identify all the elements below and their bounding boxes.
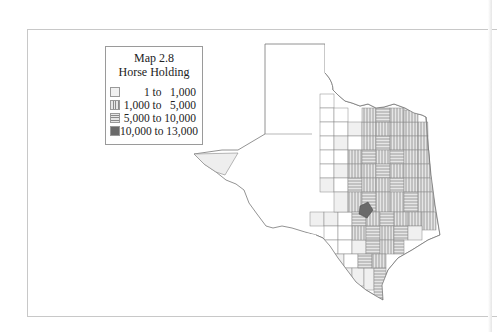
map-title: Map 2.8 [106, 51, 202, 65]
legend-item: 1 to 1,000 [106, 85, 202, 98]
legend-swatch-vertical [110, 100, 120, 110]
map-subtitle: Horse Holding [106, 65, 202, 79]
legend-swatch-dark [110, 126, 120, 136]
map-legend: Map 2.8 Horse Holding 1 to 1,000 1,000 t… [105, 46, 203, 145]
legend-swatch-light [110, 87, 120, 97]
legend-swatch-horizontal [110, 113, 120, 123]
legend-item: 1,000 to 5,000 [106, 98, 202, 111]
legend-item: 10,000 to 13,000 [106, 124, 202, 137]
legend-item: 5,000 to 10,000 [106, 111, 202, 124]
page-edge-shadow [488, 0, 492, 332]
